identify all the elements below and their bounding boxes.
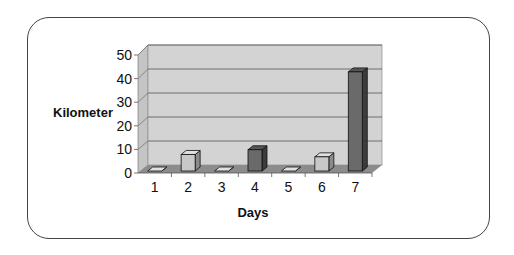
x-tick-label: 6 — [318, 179, 326, 195]
y-tick-label: 50 — [116, 47, 132, 63]
bar-day-4 — [248, 146, 267, 171]
side-wall — [138, 45, 148, 173]
bar-day-6 — [315, 153, 334, 171]
x-axis-label: Days — [237, 205, 268, 220]
y-tick-label: 30 — [116, 94, 132, 110]
y-axis-ticks: 01020304050 — [116, 47, 138, 181]
bar-chart: 01020304050 1234567 Kilometer Days — [0, 0, 514, 255]
x-tick-label: 3 — [218, 179, 226, 195]
bar-day-7 — [348, 68, 367, 171]
y-tick-label: 10 — [116, 141, 132, 157]
bar-day-2 — [181, 150, 200, 171]
x-axis-ticks: 1234567 — [151, 173, 372, 195]
y-tick-label: 20 — [116, 118, 132, 134]
y-axis-label: Kilometer — [53, 105, 113, 120]
y-tick-label: 40 — [116, 71, 132, 87]
y-tick-label: 0 — [124, 165, 132, 181]
x-tick-label: 7 — [351, 179, 359, 195]
x-tick-label: 1 — [151, 179, 159, 195]
x-tick-label: 5 — [285, 179, 293, 195]
x-tick-label: 2 — [184, 179, 192, 195]
x-tick-label: 4 — [251, 179, 259, 195]
